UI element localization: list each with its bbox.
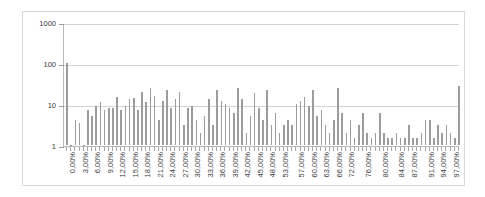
bar [183,125,185,145]
bar [454,138,456,145]
x-axis-tick [316,147,317,151]
bar [458,86,460,145]
x-axis-tick [120,147,121,151]
x-axis-tick [379,147,380,151]
x-axis-tick [191,147,192,151]
x-axis-tick [412,147,413,151]
x-axis-tick [308,147,309,151]
x-axis-label: 36,00% [219,152,227,177]
x-axis-tick [237,147,238,151]
y-axis-tick [59,24,64,25]
x-axis-tick [166,147,167,151]
y-axis-label: 100 [43,61,56,69]
bar [333,120,335,145]
bar [316,116,318,145]
x-axis-tick [291,147,292,151]
bar [279,133,281,145]
x-axis-label: 27,00% [182,152,190,177]
bar [95,106,97,145]
bar [375,133,377,145]
x-axis-tick [437,147,438,151]
x-axis-tick [262,147,263,151]
x-axis-tick [74,147,75,151]
x-axis-tick [375,147,376,151]
x-axis-tick [179,147,180,151]
bar [187,108,189,145]
x-axis-tick [79,147,80,151]
bar [137,110,139,145]
chart-x-axis-labels: 0,00%3,00%6,00%9,00%12,00%15,00%18,00%21… [64,152,460,186]
x-axis-tick [70,147,71,151]
bar [408,125,410,145]
x-axis-tick [154,147,155,151]
bar [145,102,147,145]
x-axis-tick [249,147,250,151]
x-axis-tick [170,147,171,151]
x-axis-tick [304,147,305,151]
bar [179,92,181,145]
bar [396,133,398,145]
x-axis-label: 84,00% [398,152,406,177]
x-axis-label: 66,00% [336,152,344,177]
x-axis-tick [429,147,430,151]
x-axis-label: 15,00% [132,152,140,177]
bar [262,120,264,145]
x-axis-tick [174,147,175,151]
x-axis-tick [245,147,246,151]
x-axis-tick [329,147,330,151]
x-axis-tick [366,147,367,151]
bar [91,116,93,145]
bar [312,90,314,145]
bar [308,106,310,145]
bar [237,88,239,145]
x-axis-tick [350,147,351,151]
x-axis-tick [241,147,242,151]
x-axis-label: 33,00% [207,152,215,177]
bar [75,120,77,145]
x-axis-tick [325,147,326,151]
x-axis-tick [112,147,113,151]
bar [221,101,223,145]
x-axis-tick [370,147,371,151]
x-axis-tick [141,147,142,151]
y-axis-tick [59,106,64,107]
x-axis-tick [458,147,459,151]
bar [412,138,414,145]
x-axis-tick [183,147,184,151]
x-axis-tick [83,147,84,151]
x-axis-label: 0,00% [69,152,77,173]
x-axis-label: 72,00% [348,152,356,177]
bar [429,120,431,145]
chart-plot: 1101001000 [63,24,459,147]
x-axis-tick [358,147,359,151]
x-axis-tick [275,147,276,151]
bar [79,123,81,145]
x-axis-tick [433,147,434,151]
bar [204,116,206,145]
x-axis-tick [312,147,313,151]
x-axis-tick [445,147,446,151]
bar [254,93,256,145]
bar [66,63,68,145]
x-axis-tick [354,147,355,151]
bar [162,101,164,145]
bar [241,99,243,145]
x-axis-label: 97,00% [453,152,461,177]
x-axis-tick [404,147,405,151]
x-axis-tick [425,147,426,151]
bar [416,138,418,145]
x-axis-tick [104,147,105,151]
bar [362,113,364,145]
bar [112,108,114,145]
x-axis-tick [124,147,125,151]
x-axis-tick [137,147,138,151]
bar [87,110,89,145]
bar [120,110,122,145]
x-axis-tick [129,147,130,151]
bar [158,120,160,145]
x-axis-tick [87,147,88,151]
x-axis-tick [116,147,117,151]
x-axis-tick [287,147,288,151]
x-axis-label: 30,00% [194,152,202,177]
bar [125,106,127,145]
